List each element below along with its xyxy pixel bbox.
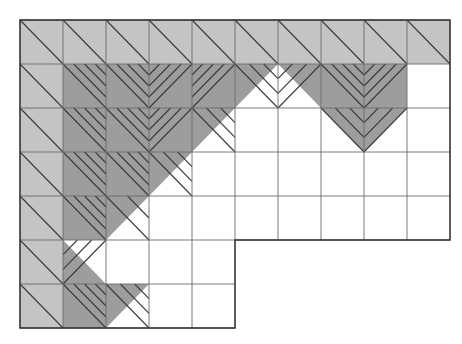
grid-diagram [0,0,462,344]
grid-diagram-svg [0,0,462,344]
figure-stage [0,0,462,344]
